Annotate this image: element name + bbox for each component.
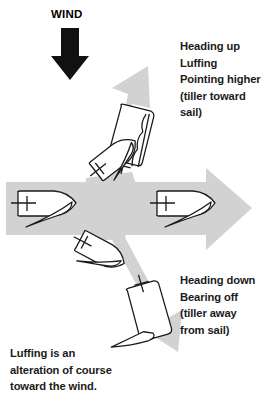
annotation-caption-line-1: Luffing is an [10,345,112,362]
annotation-heading-down-line-2: Bearing off [180,289,255,306]
annotation-heading-down-line-3: (tiller away [180,305,255,322]
annotation-caption: Luffing is an alteration of course towar… [10,345,112,395]
boat-sail [110,329,155,351]
annotation-caption-line-3: toward the wind. [10,378,112,395]
annotation-heading-down-line-4: from sail) [180,322,255,339]
annotation-heading-up: Heading up Luffing Pointing higher (till… [180,38,261,121]
annotation-caption-line-2: alteration of course [10,362,112,379]
wind-arrow-down-icon [51,28,89,80]
wind-label: WIND [51,8,82,20]
annotation-heading-up-line-3: Pointing higher [180,71,261,88]
annotation-heading-up-line-2: Luffing [180,55,261,72]
annotation-heading-up-line-4: (tiller toward [180,88,261,105]
annotation-heading-up-line-5: sail) [180,104,261,121]
annotation-heading-down-line-1: Heading down [180,272,255,289]
diagram-page: WIND Heading up Luffing Pointing higher … [0,0,275,402]
annotation-heading-up-line-1: Heading up [180,38,261,55]
annotation-heading-down: Heading down Bearing off (tiller away fr… [180,272,255,338]
